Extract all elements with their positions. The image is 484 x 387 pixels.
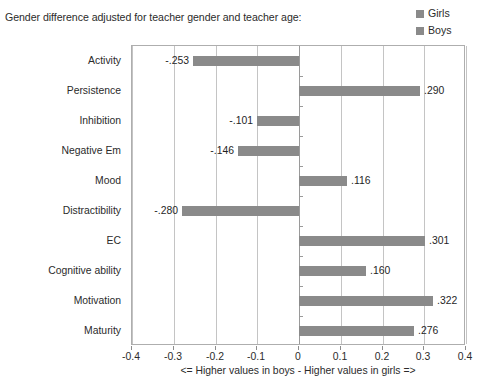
bar-value-label: -.146 (132, 146, 238, 156)
bar (193, 56, 299, 66)
x-tick-mark (298, 346, 299, 350)
category-label: Negative Em (62, 145, 121, 156)
bar (299, 86, 420, 96)
x-tick-label: 0.2 (375, 351, 389, 362)
bar (299, 266, 366, 276)
category-label: Inhibition (79, 115, 121, 126)
category-axis-labels: ActivityPersistenceInhibitionNegative Em… (0, 45, 126, 345)
legend-label-boys: Boys (428, 25, 452, 36)
x-tick-mark (215, 346, 216, 350)
x-tick-mark (131, 346, 132, 350)
bar-value-label: .116 (351, 176, 370, 186)
bar (257, 116, 299, 126)
bar-value-label: .290 (424, 86, 444, 96)
category-label: Distractibility (63, 205, 121, 216)
legend-swatch-girls (416, 10, 424, 18)
x-tick-label: 0.4 (458, 351, 472, 362)
bar (182, 206, 299, 216)
bar-value-label: -.253 (132, 56, 193, 66)
x-tick-mark (423, 346, 424, 350)
bar-value-label: -.280 (132, 206, 182, 216)
bar (299, 296, 433, 306)
bar-chart-figure: Gender difference adjusted for teacher g… (0, 0, 484, 387)
bar (238, 146, 299, 156)
x-tick-label: 0.1 (333, 351, 347, 362)
category-label: EC (107, 235, 121, 246)
legend-item-girls: Girls (416, 5, 478, 22)
bar-value-label: .301 (429, 236, 449, 246)
category-label: Activity (88, 55, 121, 66)
bar-value-label: .322 (437, 296, 457, 306)
category-label: Maturity (84, 325, 121, 336)
bar (299, 326, 414, 336)
x-tick-mark (173, 346, 174, 350)
category-label: Persistence (67, 85, 121, 96)
category-label: Cognitive ability (48, 265, 121, 276)
chart-legend: Girls Boys (416, 5, 478, 39)
x-tick-mark (340, 346, 341, 350)
chart-title: Gender difference adjusted for teacher g… (5, 11, 301, 23)
bar-value-label: .160 (370, 266, 390, 276)
legend-swatch-boys (416, 27, 424, 35)
x-tick-label: 0 (295, 351, 301, 362)
plot-area: -.253.290-.101-.146.116-.280.301.160.322… (131, 45, 465, 345)
x-tick-mark (256, 346, 257, 350)
x-tick-label: -0.3 (164, 351, 182, 362)
x-tick-label: -0.1 (247, 351, 265, 362)
x-tick-label: -0.4 (122, 351, 140, 362)
bar-series: -.253.290-.101-.146.116-.280.301.160.322… (132, 46, 464, 344)
x-tick-label: 0.3 (416, 351, 430, 362)
bar-value-label: .276 (418, 326, 438, 336)
x-tick-mark (382, 346, 383, 350)
category-label: Mood (95, 175, 121, 186)
bar-value-label: -.101 (132, 116, 257, 126)
gridline (466, 46, 467, 344)
legend-label-girls: Girls (428, 8, 450, 19)
x-tick-mark (465, 346, 466, 350)
x-axis-title: <= Higher values in boys - Higher values… (131, 365, 465, 376)
legend-item-boys: Boys (416, 22, 478, 39)
x-tick-label: -0.2 (206, 351, 224, 362)
bar (299, 176, 347, 186)
bar (299, 236, 425, 246)
value-axis: -0.4-0.3-0.2-0.100.10.20.30.4 (131, 346, 465, 364)
category-label: Motivation (74, 295, 121, 306)
